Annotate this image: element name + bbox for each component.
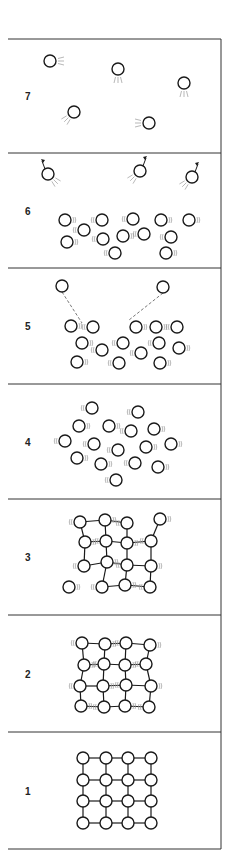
particle (79, 536, 91, 548)
particle (135, 347, 147, 359)
particle (88, 438, 100, 450)
particle (59, 435, 71, 447)
particle (148, 423, 160, 435)
particle (99, 514, 111, 526)
particle (65, 320, 77, 332)
particle (165, 231, 177, 243)
particle (171, 321, 183, 333)
particle (86, 402, 98, 414)
particle (44, 55, 56, 67)
particle (145, 774, 157, 786)
particle (154, 513, 166, 525)
particle (113, 357, 125, 369)
particle (96, 214, 108, 226)
particle (150, 321, 162, 333)
panel-5: 5 (8, 268, 221, 369)
particle (71, 452, 83, 464)
particle (59, 214, 71, 226)
particle (117, 230, 129, 242)
particle (77, 795, 89, 807)
particle (112, 63, 124, 75)
panel-label: 2 (25, 669, 31, 680)
particle (119, 659, 131, 671)
particle (155, 214, 167, 226)
particle (78, 224, 90, 236)
particle (109, 247, 121, 259)
particle (78, 560, 90, 572)
particle (74, 516, 86, 528)
particle (144, 581, 156, 593)
particle (160, 247, 172, 259)
particle (74, 680, 86, 692)
particle (152, 461, 164, 473)
particle (103, 420, 115, 432)
particle (75, 700, 87, 712)
particle (76, 337, 88, 349)
particle (99, 638, 111, 650)
panel-4: 4 (8, 384, 221, 486)
particle (145, 752, 157, 764)
particle (186, 171, 198, 183)
panel-6: 6 (8, 153, 221, 259)
particle (165, 438, 177, 450)
panel-label: 4 (25, 437, 31, 448)
particle (125, 425, 137, 437)
particle (101, 556, 113, 568)
panel-7: 7 (8, 39, 221, 129)
particle (98, 658, 110, 670)
particle (153, 337, 165, 349)
particle (78, 659, 90, 671)
particle (87, 321, 99, 333)
panel-3: 3 (8, 499, 221, 593)
particle (122, 817, 134, 829)
particle (68, 106, 80, 118)
particle (138, 228, 150, 240)
particle (145, 680, 157, 692)
particle (77, 752, 89, 764)
particle (145, 795, 157, 807)
particle (77, 774, 89, 786)
particle (122, 752, 134, 764)
panel-label: 7 (25, 91, 31, 102)
particle (154, 357, 166, 369)
particle (183, 214, 195, 226)
particle (117, 337, 129, 349)
particle (56, 280, 68, 292)
particle (119, 700, 131, 712)
particle (121, 559, 133, 571)
panel-label: 3 (25, 552, 31, 563)
particle (110, 474, 122, 486)
particle (130, 321, 142, 333)
particle (100, 817, 112, 829)
particle (140, 658, 152, 670)
panel-2: 2 (8, 615, 221, 713)
particle (122, 795, 134, 807)
particle (112, 444, 124, 456)
particle (100, 752, 112, 764)
particle (100, 795, 112, 807)
particle (76, 637, 88, 649)
particle (73, 420, 85, 432)
particle (145, 817, 157, 829)
particle (144, 639, 156, 651)
panel-label: 6 (25, 206, 31, 217)
particle (63, 581, 75, 593)
panel-1: 1 (8, 732, 221, 849)
particle (120, 637, 132, 649)
panels: 7654321 (8, 39, 221, 849)
particle (95, 458, 107, 470)
particle (143, 117, 155, 129)
particle (97, 233, 109, 245)
particle (119, 579, 131, 591)
particle (127, 213, 139, 225)
particle (77, 817, 89, 829)
particle (129, 457, 141, 469)
states-of-matter-diagram: 7654321 (0, 0, 234, 867)
particle (96, 344, 108, 356)
particle (122, 774, 134, 786)
particle (132, 406, 144, 418)
particle (42, 168, 54, 180)
particle (100, 774, 112, 786)
particle (97, 680, 109, 692)
particle (98, 701, 110, 713)
